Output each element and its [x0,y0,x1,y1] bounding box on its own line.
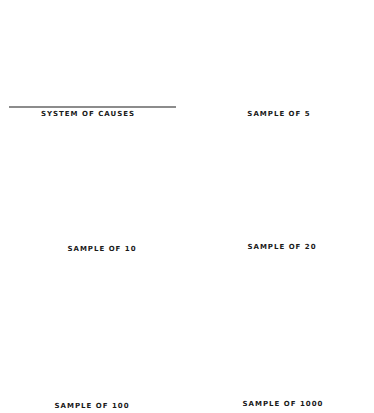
panel-sample-of-100: SAMPLE OF 100 [0,260,187,413]
panel-label: SAMPLE OF 10 [67,245,136,253]
panel-label: SAMPLE OF 100 [54,402,129,410]
sample-histogram [187,260,374,413]
panel-label: SAMPLE OF 1000 [243,400,324,408]
sample-histogram [187,130,374,260]
panel-sample-of-10: SAMPLE OF 10 [0,130,187,260]
panel-system-of-causes: SYSTEM OF CAUSES [0,0,187,130]
panel-sample-of-20: SAMPLE OF 20 [187,130,374,260]
panel-label: SAMPLE OF 20 [247,243,316,251]
sample-histogram [0,260,187,413]
sample-histogram [0,130,187,260]
panel-sample-of-5: SAMPLE OF 5 [187,0,374,130]
panel-sample-of-1000: SAMPLE OF 1000 [187,260,374,413]
panel-label: SAMPLE OF 5 [247,110,310,118]
panel-label: SYSTEM OF CAUSES [41,110,135,118]
